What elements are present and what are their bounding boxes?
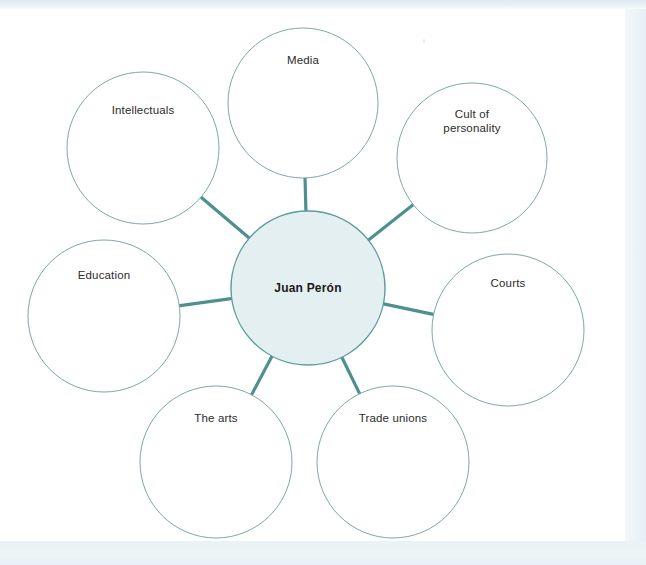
node-circle-trade-unions[interactable] [317, 386, 469, 538]
central-node-layer [231, 211, 385, 365]
node-circle-education[interactable] [28, 240, 180, 392]
spoke-courts [382, 304, 434, 315]
spoke-trade-unions [341, 356, 360, 394]
mind-map-diagram: MediaCult of personalityCourtsTrade unio… [0, 0, 646, 565]
node-circle-courts[interactable] [432, 254, 584, 406]
spoke-cult-of-personality [368, 204, 414, 241]
mind-map-svg [0, 0, 646, 565]
node-circle-media[interactable] [228, 28, 378, 178]
spoke-intellectuals [200, 197, 250, 239]
spoke-the-arts [251, 355, 272, 396]
page-canvas: MediaCult of personalityCourtsTrade unio… [0, 0, 646, 565]
node-circle-cult-of-personality[interactable] [397, 83, 547, 233]
spoke-media [305, 177, 306, 212]
node-circle-central[interactable] [231, 211, 385, 365]
node-circle-intellectuals[interactable] [67, 72, 219, 224]
node-circle-the-arts[interactable] [140, 386, 292, 538]
spoke-education [178, 298, 232, 305]
